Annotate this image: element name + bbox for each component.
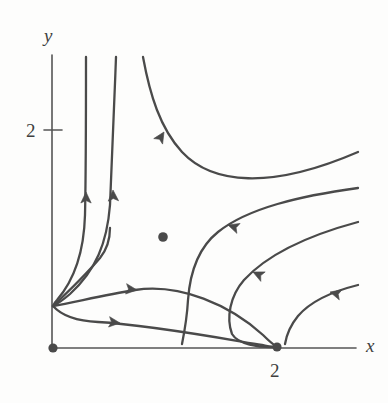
phase-portrait-figure: 22xy — [0, 0, 388, 403]
x2-equilibrium — [272, 342, 281, 351]
trajectory-inflow-upper — [182, 188, 358, 344]
y-tick-2-label: 2 — [26, 120, 36, 141]
interior-equilibrium — [158, 232, 168, 242]
trajectory-rising-right — [143, 57, 358, 178]
trajectories-group — [53, 57, 358, 347]
x-tick-2-label: 2 — [270, 360, 280, 381]
trajectory-saddle-upper-branch — [53, 289, 277, 347]
x-axis-label: x — [365, 335, 375, 356]
origin-equilibrium — [48, 343, 57, 352]
trajectory-inflow-lower — [285, 285, 358, 344]
equilibria-group — [48, 232, 281, 352]
trajectory-saddle-lower-branch — [53, 306, 277, 347]
trajectory-saddle-upper-branch-arrowhead-0 — [126, 284, 138, 295]
trajectory-inflow-mid-arrowhead-0 — [251, 267, 265, 281]
trajectory-left-vertical — [53, 57, 86, 306]
labels-group: 22xy — [26, 25, 375, 381]
phase-portrait-canvas: 22xy — [0, 0, 388, 403]
trajectory-inflow-mid — [229, 222, 358, 347]
y-axis-label: y — [42, 25, 53, 46]
